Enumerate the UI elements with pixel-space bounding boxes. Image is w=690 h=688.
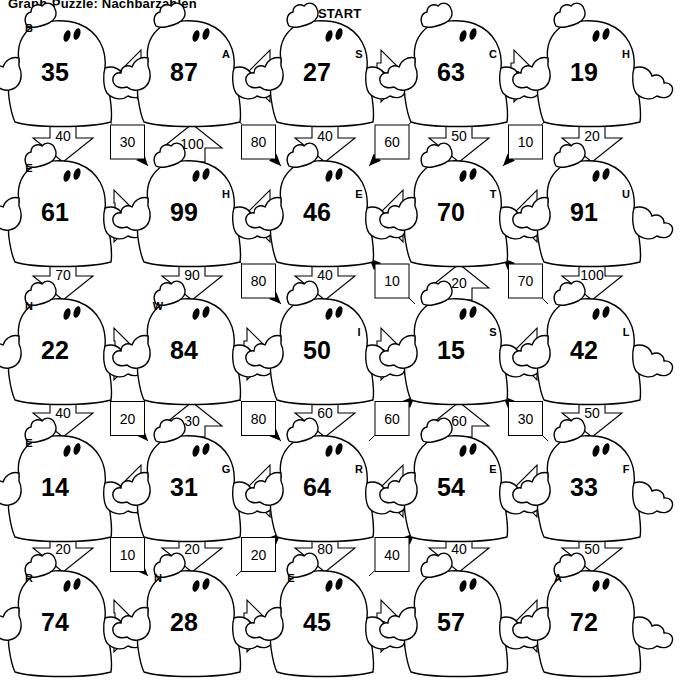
ghost-node: 72A [513, 553, 673, 676]
node-letter: B [25, 22, 33, 34]
node-value: 45 [303, 608, 331, 636]
node-value: 91 [570, 198, 598, 226]
node-value: 50 [303, 336, 331, 364]
node-value: 87 [170, 58, 198, 86]
node-value: 54 [437, 473, 465, 501]
node-value: 74 [41, 608, 69, 636]
ghost-hand-right [633, 617, 673, 649]
edge-diagonal: 60 [369, 396, 415, 441]
node-letter: A [222, 48, 230, 60]
node-letter: R [25, 572, 33, 584]
node-letter: C [489, 48, 497, 60]
edge-diagonal: 80 [236, 118, 281, 166]
node-letter: S [489, 326, 496, 338]
node-letter: H [222, 188, 230, 200]
edge-weight: 50 [451, 128, 467, 144]
edge-weight: 10 [518, 134, 534, 150]
node-letter: G [222, 463, 231, 475]
edge-diagonal: 10 [107, 533, 148, 576]
node-value: 22 [41, 336, 69, 364]
edge-weight: 20 [184, 541, 200, 557]
node-value: 33 [570, 473, 598, 501]
ghost-node: 14E [0, 418, 144, 541]
ghost-hand-right [633, 482, 673, 514]
edge-weight: 40 [55, 128, 71, 144]
node-value: 28 [170, 608, 198, 636]
edge-weight: 60 [317, 405, 333, 421]
edge-diagonal: 30 [503, 396, 548, 441]
edge-diagonal: 10 [369, 258, 415, 304]
edge-line [369, 571, 374, 576]
node-letter: A [554, 572, 562, 584]
edge-weight: 20 [120, 411, 136, 427]
edge-weight: 60 [384, 134, 400, 150]
ghost-node: 35B [0, 3, 144, 126]
ghost-hand-left [0, 336, 21, 369]
edge-weight: 60 [451, 413, 467, 429]
ghost-hand-right [633, 207, 673, 239]
node-letter: L [623, 326, 630, 338]
node-value: 42 [570, 336, 598, 364]
node-letter: T [490, 188, 497, 200]
node-letter: R [355, 463, 363, 475]
ghost-node: 42L [513, 281, 673, 404]
ghost-node: 99H [113, 143, 273, 266]
node-letter: H [622, 48, 630, 60]
ghost-hand-left [0, 473, 21, 506]
ghost-hand-right [633, 345, 673, 377]
node-letter: E [25, 162, 32, 174]
edge-weight: 30 [184, 413, 200, 429]
node-value: 31 [170, 473, 198, 501]
node-value: 61 [41, 198, 69, 226]
ghost-hand-left [0, 608, 21, 641]
ghost-hand-left [0, 58, 21, 91]
edge-weight: 20 [55, 541, 71, 557]
node-letter: U [622, 188, 630, 200]
node-letter: S [355, 48, 362, 60]
edge-weight: 80 [251, 134, 267, 150]
node-value: 19 [570, 58, 598, 86]
node-letter: E [287, 572, 294, 584]
edge-weight: 40 [384, 547, 400, 563]
edge-weight: 80 [317, 541, 333, 557]
node-value: 14 [41, 473, 69, 501]
edge-weight: 20 [584, 128, 600, 144]
edge-diagonal: 70 [503, 258, 548, 304]
edge-weight: 50 [584, 405, 600, 421]
edge-line [542, 435, 548, 441]
edge-line [236, 571, 241, 576]
edge-weight: 40 [317, 128, 333, 144]
node-value: 72 [570, 608, 598, 636]
edge-weight: 80 [251, 411, 267, 427]
ghost-node: 31G [113, 418, 273, 541]
edge-line [409, 298, 415, 304]
edge-weight: 10 [120, 547, 136, 563]
edge-weight: 60 [384, 411, 400, 427]
ghost-node: 64R [246, 418, 406, 541]
ghost-node: 54E [380, 418, 540, 541]
ghost-node: 19H [513, 3, 673, 126]
edge-weight: 30 [120, 134, 136, 150]
node-letter: I [357, 326, 360, 338]
node-value: 84 [170, 336, 198, 364]
edge-diagonal: 20 [107, 396, 148, 441]
edge-weight: 80 [251, 273, 267, 289]
edge-diagonal: 30 [107, 118, 148, 166]
ghost-node: 91U [513, 143, 673, 266]
edge-diagonal: 60 [369, 118, 415, 166]
ghost-node: 15S [380, 281, 540, 404]
edge-weight: 100 [580, 267, 604, 283]
node-value: 27 [303, 58, 331, 86]
node-letter: E [489, 463, 496, 475]
node-letter: F [623, 463, 630, 475]
edge-weight: 30 [518, 411, 534, 427]
ghost-hand-left [0, 198, 21, 231]
edge-diagonal: 80 [236, 258, 281, 304]
node-value: 35 [41, 58, 69, 86]
node-letter: N [25, 300, 33, 312]
edge-weight: 10 [384, 273, 400, 289]
node-letter: W [153, 300, 164, 312]
edge-weight: 40 [317, 267, 333, 283]
edge-diagonal: 20 [236, 533, 281, 576]
node-letter: E [25, 437, 32, 449]
